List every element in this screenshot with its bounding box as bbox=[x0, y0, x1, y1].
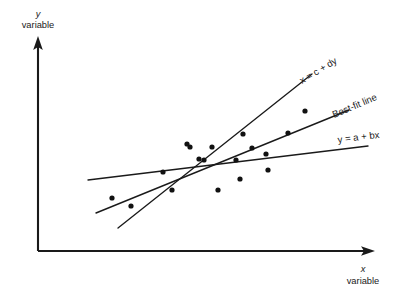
data-point bbox=[237, 176, 242, 181]
data-point bbox=[265, 167, 270, 172]
data-point bbox=[240, 131, 245, 136]
data-point bbox=[128, 203, 133, 208]
data-point bbox=[263, 151, 268, 156]
scatter-plot-figure: y variable x variable x = c + dy Best-fi… bbox=[0, 0, 412, 294]
figure-background bbox=[0, 0, 412, 294]
y-axis-word-label: variable bbox=[22, 20, 55, 30]
data-point bbox=[233, 157, 238, 162]
data-point bbox=[109, 195, 114, 200]
data-point bbox=[215, 187, 220, 192]
data-point bbox=[169, 187, 174, 192]
data-point bbox=[196, 156, 201, 161]
data-point bbox=[187, 144, 192, 149]
data-point bbox=[249, 145, 254, 150]
data-point bbox=[209, 144, 214, 149]
data-point bbox=[201, 157, 206, 162]
data-point bbox=[285, 130, 290, 135]
x-axis-word-label: variable bbox=[347, 276, 380, 286]
data-point bbox=[160, 169, 165, 174]
x-axis-symbol-label: x bbox=[360, 264, 366, 274]
data-point bbox=[302, 108, 307, 113]
